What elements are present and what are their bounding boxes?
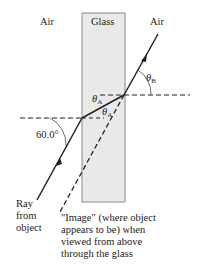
ray-label: Ray from object (16, 198, 42, 234)
angle-label-theta-a-lower: θA (102, 106, 112, 121)
region-label-air-right: Air (150, 16, 164, 28)
arrow-icon (141, 54, 147, 62)
angle-label-theta-b: θB (146, 72, 156, 87)
angle-label-60: 60.0° (36, 129, 59, 141)
image-label: "Image" (where object appears to be) whe… (61, 212, 156, 260)
region-label-glass: Glass (91, 16, 114, 28)
angle-label-theta-a: θA (92, 93, 102, 108)
region-label-air-left: Air (40, 16, 54, 28)
